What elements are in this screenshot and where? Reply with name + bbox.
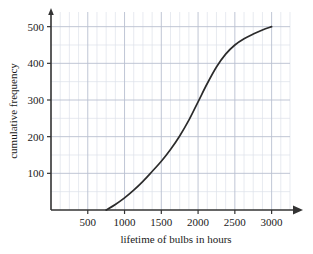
y-axis-tick-label: 100 xyxy=(28,167,45,179)
x-axis-tick-label: 1500 xyxy=(150,216,173,228)
y-axis-tick-label: 200 xyxy=(28,131,45,143)
y-axis-tick-label: 300 xyxy=(28,94,45,106)
y-axis-title: cumulative frequency xyxy=(7,63,19,159)
x-axis-tick-label: 1000 xyxy=(114,216,137,228)
x-axis-tick-label: 2000 xyxy=(187,216,210,228)
y-axis-tick-label: 500 xyxy=(28,21,45,33)
y-axis-tick-label: 400 xyxy=(28,57,45,69)
chart-canvas: 50010001500200025003000 100200300400500 … xyxy=(0,0,313,254)
x-axis-title: lifetime of bulbs in hours xyxy=(120,233,231,245)
x-axis-tick-label: 500 xyxy=(80,216,97,228)
x-axis-tick-label: 2500 xyxy=(224,216,247,228)
x-axis-tick-label: 3000 xyxy=(261,216,284,228)
cumulative-frequency-chart: 50010001500200025003000 100200300400500 … xyxy=(0,0,313,254)
